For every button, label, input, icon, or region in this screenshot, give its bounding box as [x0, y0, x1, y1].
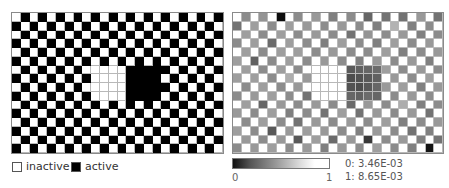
active-cell: [153, 127, 162, 136]
heatmap-cell: [286, 31, 295, 40]
heatmap-cell: [277, 22, 286, 31]
heatmap-cell: [338, 57, 347, 66]
heatmap-cell: [382, 127, 391, 136]
inactive-cell: [91, 127, 100, 136]
heatmap-cell: [294, 13, 303, 22]
heatmap-cell: [242, 118, 251, 127]
inactive-cell: [197, 92, 206, 101]
heatmap-cell: [434, 39, 443, 48]
inactive-cell: [153, 136, 162, 145]
heatmap-cell: [329, 144, 338, 153]
active-cell: [179, 101, 188, 110]
active-cell: [12, 39, 21, 48]
inactive-cell: [118, 31, 127, 40]
inactive-cell: [74, 92, 83, 101]
active-cell: [144, 74, 153, 83]
heatmap-cell: [277, 57, 286, 66]
heatmap-cell: [312, 109, 321, 118]
heatmap-cell: [259, 74, 268, 83]
heatmap-cell: [277, 39, 286, 48]
active-cell: [100, 144, 109, 153]
active-cell: [109, 118, 118, 127]
range-min-value: 0: 3.46E-03: [345, 158, 403, 169]
heatmap-cell: [382, 22, 391, 31]
heatmap-cell: [277, 83, 286, 92]
heatmap-cell: [312, 57, 321, 66]
heatmap-cell: [242, 22, 251, 31]
heatmap-cell: [434, 48, 443, 57]
inactive-cell: [161, 57, 170, 66]
active-cell: [82, 39, 91, 48]
inactive-cell: [214, 127, 223, 136]
active-cell: [100, 39, 109, 48]
inactive-cell: [109, 74, 118, 83]
active-cell: [197, 83, 206, 92]
heatmap-cell: [347, 83, 356, 92]
inactive-cell: [30, 13, 39, 22]
active-cell: [47, 92, 56, 101]
heatmap-cell: [277, 92, 286, 101]
active-cell: [188, 127, 197, 136]
inactive-cell: [47, 118, 56, 127]
heatmap-cell: [294, 31, 303, 40]
heatmap-cell: [417, 127, 426, 136]
heatmap-cell: [426, 144, 435, 153]
heatmap-cell: [233, 74, 242, 83]
heatmap-cell: [312, 22, 321, 31]
inactive-cell: [38, 39, 47, 48]
inactive-cell: [205, 66, 214, 75]
active-cell: [74, 31, 83, 40]
heatmap-cell: [277, 136, 286, 145]
heatmap-cell: [268, 127, 277, 136]
heatmap-cell: [347, 22, 356, 31]
inactive-cell: [144, 39, 153, 48]
inactive-cell: [135, 118, 144, 127]
heatmap-cell: [294, 22, 303, 31]
heatmap-cell: [356, 127, 365, 136]
heatmap-cell: [347, 39, 356, 48]
active-cell: [30, 109, 39, 118]
heatmap-cell: [399, 48, 408, 57]
heatmap-cell: [399, 101, 408, 110]
heatmap-cell: [434, 136, 443, 145]
inactive-cell: [179, 127, 188, 136]
heatmap-cell: [364, 109, 373, 118]
inactive-cell: [144, 127, 153, 136]
active-cell: [47, 39, 56, 48]
heatmap-cell: [242, 127, 251, 136]
heatmap-cell: [391, 92, 400, 101]
inactive-cell: [82, 31, 91, 40]
heatmap-cell: [408, 39, 417, 48]
inactive-cell: [56, 74, 65, 83]
heatmap-cell: [347, 48, 356, 57]
inactive-cell: [188, 118, 197, 127]
heatmap-cell: [242, 101, 251, 110]
active-cell: [214, 83, 223, 92]
heatmap-cell: [382, 118, 391, 127]
active-cell: [30, 39, 39, 48]
active-cell: [205, 144, 214, 153]
inactive-cell: [74, 57, 83, 66]
heatmap-cell: [312, 127, 321, 136]
heatmap-cell: [408, 136, 417, 145]
inactive-cell: [170, 13, 179, 22]
heatmap-cell: [286, 109, 295, 118]
heatmap-cell: [251, 92, 260, 101]
heatmap-cell: [347, 74, 356, 83]
heatmap-cell: [312, 101, 321, 110]
inactive-cell: [205, 83, 214, 92]
active-cell: [30, 92, 39, 101]
heatmap-cell: [426, 92, 435, 101]
heatmap-cell: [259, 22, 268, 31]
heatmap-cell: [329, 66, 338, 75]
inactive-cell: [47, 83, 56, 92]
active-cell: [38, 101, 47, 110]
active-cell: [38, 48, 47, 57]
active-cell: [188, 92, 197, 101]
heatmap-cell: [321, 136, 330, 145]
inactive-cell: [197, 57, 206, 66]
heatmap-cell: [426, 136, 435, 145]
heatmap-cell: [417, 109, 426, 118]
active-cell: [126, 74, 135, 83]
heatmap-cell: [233, 48, 242, 57]
